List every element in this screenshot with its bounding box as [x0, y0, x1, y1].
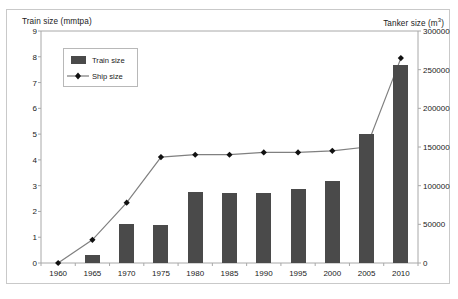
- bar: [393, 65, 408, 263]
- bar: [188, 192, 203, 263]
- x-axis-tick-label: 1995: [289, 269, 307, 278]
- y-axis-tick-label: 1: [11, 233, 37, 242]
- legend-line-marker-icon: [64, 71, 92, 81]
- y-axis-tick-label: 7: [11, 78, 37, 87]
- y2-axis-tick-label: 150000: [423, 143, 450, 152]
- x-axis-tick-label: 2000: [323, 269, 341, 278]
- bar: [153, 225, 168, 263]
- x-axis-tick-label: 2005: [358, 269, 376, 278]
- y-axis-tick-label: 3: [11, 181, 37, 190]
- x-axis-tick-label: 1970: [118, 269, 136, 278]
- chart-legend: Train size Ship size: [63, 48, 138, 87]
- y-axis-tick-label: 4: [11, 155, 37, 164]
- legend-bar-swatch-icon: [64, 56, 92, 64]
- legend-label-ship-size: Ship size: [92, 72, 123, 81]
- y-axis-tick-label: 9: [11, 27, 37, 36]
- x-axis-tick-label: 2010: [392, 269, 410, 278]
- bar: [85, 255, 100, 263]
- x-axis-tick-label: 1985: [221, 269, 239, 278]
- x-axis-tick-label: 1990: [255, 269, 273, 278]
- bar: [256, 193, 271, 263]
- plot-area: 0123456789 05000010000015000020000025000…: [41, 31, 418, 263]
- y-axis-tick-label: 5: [11, 130, 37, 139]
- bar: [291, 189, 306, 263]
- legend-item-train-size: Train size: [64, 53, 137, 67]
- y2-axis-tick-label: 50000: [423, 220, 445, 229]
- legend-item-ship-size: Ship size: [64, 69, 137, 83]
- y-axis-tick-label: 6: [11, 104, 37, 113]
- y2-axis-tick-label: 250000: [423, 65, 450, 74]
- bar: [119, 224, 134, 263]
- x-axis-tick-label: 1980: [186, 269, 204, 278]
- y2-axis-tick-label: 200000: [423, 104, 450, 113]
- y-axis-tick-label: 0: [11, 259, 37, 268]
- y2-axis-tick-label: 300000: [423, 27, 450, 36]
- y-axis-tick-label: 8: [11, 52, 37, 61]
- y2-axis-tick-label: 0: [423, 259, 427, 268]
- legend-label-train-size: Train size: [92, 56, 125, 65]
- bar: [359, 134, 374, 263]
- x-axis-tick-label: 1975: [152, 269, 170, 278]
- y-axis-tick-label: 2: [11, 207, 37, 216]
- bar: [325, 181, 340, 263]
- bar: [222, 193, 237, 263]
- x-axis-tick-label: 1960: [49, 269, 67, 278]
- y2-axis-tick-label: 100000: [423, 181, 450, 190]
- x-axis-tick-label: 1965: [84, 269, 102, 278]
